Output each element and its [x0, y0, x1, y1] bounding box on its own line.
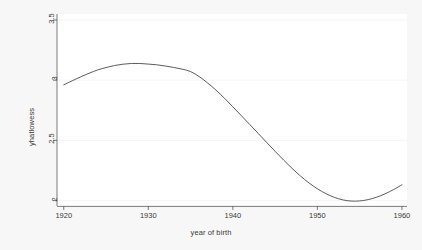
x-tick-label: 1950: [309, 211, 326, 220]
y-tick-label: 3: [52, 74, 56, 83]
y-tick-label-text: 3: [49, 77, 58, 81]
x-tick-label: 1930: [140, 211, 157, 220]
y-tick-label: 2.5: [46, 134, 56, 143]
x-axis-title: year of birth: [0, 228, 422, 237]
x-tick-label: 1960: [394, 211, 411, 220]
y-axis-tick-marks: [53, 20, 57, 201]
x-tick-label: 1920: [55, 211, 72, 220]
y-axis-title: yhatlowess: [27, 108, 36, 146]
y-tick-label-text: 3.5: [46, 13, 55, 23]
x-tick-label: 1940: [225, 211, 242, 220]
y-tick-label-text: 2.5: [46, 134, 55, 144]
figure-container: yhatlowess year of birth 192019301940195…: [0, 0, 422, 250]
plot-panel: [57, 14, 407, 206]
y-tick-label-text: 2: [49, 197, 58, 201]
y-tick-label: 2: [52, 195, 56, 204]
y-tick-label: 3.5: [46, 14, 56, 23]
